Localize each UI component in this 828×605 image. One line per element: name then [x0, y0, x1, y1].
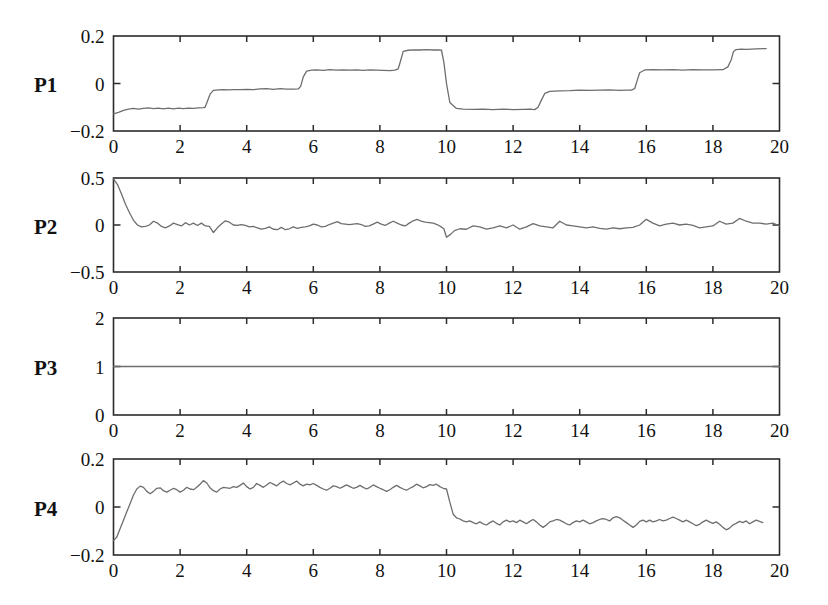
x-tick-label: 14 — [570, 560, 590, 581]
y-tick-label: 0 — [95, 74, 105, 95]
y-tick-label: −0.2 — [70, 121, 104, 142]
x-tick-label: 10 — [437, 560, 456, 581]
y-tick-label: 0.5 — [81, 168, 105, 189]
data-series-line — [114, 481, 763, 541]
y-tick-label: −0.2 — [70, 545, 104, 566]
y-tick-label: 0 — [95, 215, 105, 236]
y-tick-label: −0.5 — [70, 262, 104, 283]
plot-area-p3: 02468101214161820012 — [0, 283, 828, 443]
x-tick-label: 16 — [637, 560, 656, 581]
panel-p2: P2 02468101214161820−0.500.5 — [0, 143, 828, 303]
x-tick-label: 4 — [242, 560, 252, 581]
plot-area-p2: 02468101214161820−0.500.5 — [0, 143, 828, 303]
x-tick-label: 20 — [770, 560, 789, 581]
x-tick-label: 0 — [109, 560, 119, 581]
axis-frame — [114, 459, 780, 555]
y-tick-label: 0.2 — [81, 449, 105, 470]
panel-p3: P3 02468101214161820012 — [0, 283, 828, 443]
plot-area-p1: 02468101214161820−0.200.2 — [0, 0, 828, 160]
x-tick-label: 6 — [309, 560, 319, 581]
y-tick-label: 0 — [95, 497, 105, 518]
x-tick-label: 12 — [504, 560, 523, 581]
y-tick-label: 0.2 — [81, 26, 105, 47]
multi-panel-figure: P1 02468101214161820−0.200.2 P2 02468101… — [0, 0, 828, 605]
plot-area-p4: 02468101214161820−0.200.2 — [0, 424, 828, 599]
x-tick-label: 8 — [375, 560, 385, 581]
y-tick-label: 1 — [95, 357, 105, 378]
y-tick-label: 2 — [95, 308, 105, 329]
data-series-line — [114, 49, 767, 114]
y-tick-label: 0 — [95, 405, 105, 426]
panel-p4: P4 02468101214161820−0.200.2 — [0, 424, 828, 599]
data-series-line — [114, 179, 780, 237]
x-tick-label: 18 — [703, 560, 722, 581]
x-tick-label: 2 — [175, 560, 185, 581]
panel-p1: P1 02468101214161820−0.200.2 — [0, 0, 828, 160]
